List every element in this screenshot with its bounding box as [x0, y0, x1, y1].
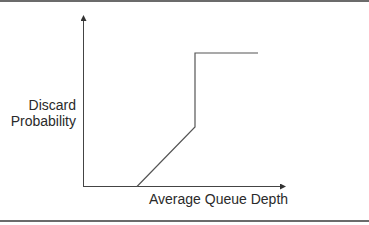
- y-axis-label-line-2: Probability: [11, 113, 76, 129]
- bottom-rule: [0, 220, 369, 222]
- discard-probability-curve: [137, 53, 258, 187]
- y-axis-label-line-1: Discard: [11, 97, 76, 113]
- x-axis-label: Average Queue Depth: [149, 191, 288, 207]
- y-axis-label: Discard Probability: [11, 97, 76, 129]
